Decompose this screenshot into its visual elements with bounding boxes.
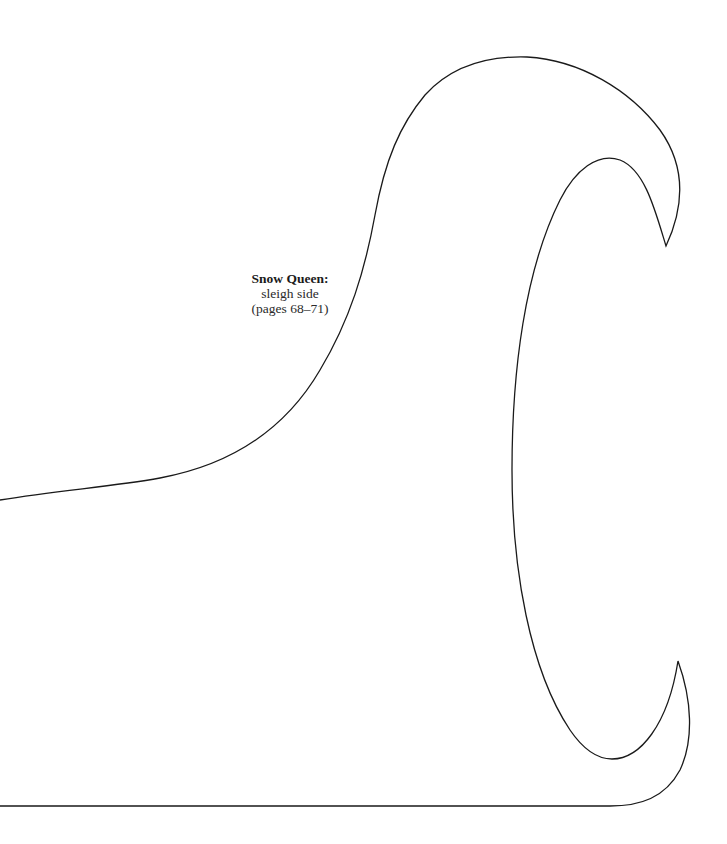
template-sheet: Snow Queen: sleigh side (pages 68–71) [0, 0, 727, 844]
label-pages: (pages 68–71) [218, 301, 362, 316]
template-label: Snow Queen: sleigh side (pages 68–71) [218, 271, 362, 316]
sleigh-side-outline-icon [0, 0, 727, 844]
sleigh-outline-path [0, 57, 690, 806]
label-subtitle: sleigh side [218, 286, 362, 301]
label-title: Snow Queen: [218, 271, 362, 286]
